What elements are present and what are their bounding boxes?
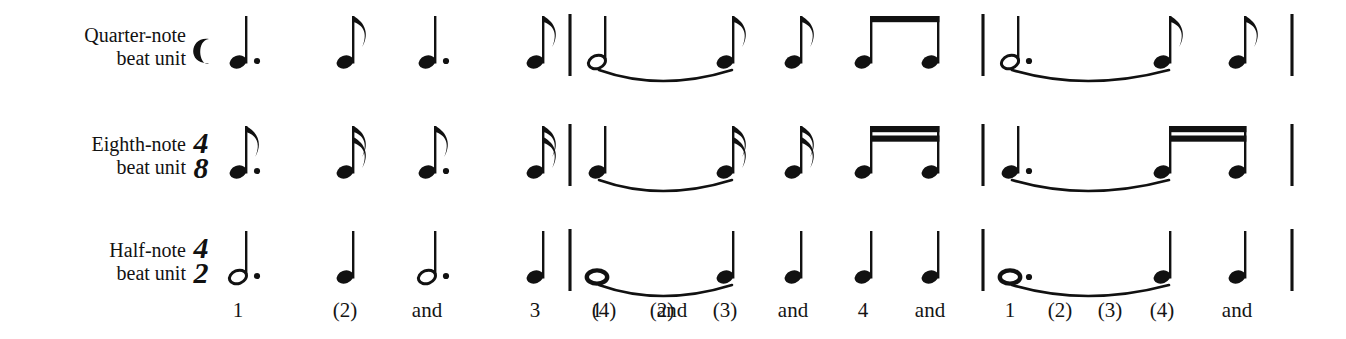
- note-flag: [733, 16, 746, 47]
- note-eighth: [1152, 16, 1183, 71]
- tie-slur: [1012, 180, 1169, 191]
- note-quarter: [1000, 126, 1032, 181]
- note-whole: [587, 270, 607, 283]
- note-quarter: [715, 231, 736, 286]
- tie-slur: [599, 180, 732, 191]
- note-eighth: [853, 16, 874, 71]
- note-sixteenth: [920, 126, 941, 181]
- time-signature-quarter-note-row: [193, 39, 210, 64]
- time-signature-half-note-row: 42: [193, 231, 209, 289]
- note-flag: [1170, 16, 1183, 47]
- tie-slur: [599, 285, 732, 296]
- count-label: (2): [333, 298, 358, 323]
- note-quarter: [587, 126, 608, 181]
- note-sixteenth: [853, 126, 874, 181]
- notation-row-quarter-note-row: [193, 14, 1292, 81]
- time-signature-eighth-note-row: 48: [193, 126, 209, 184]
- count-label: (4): [1150, 298, 1175, 323]
- notehead-whole: [1000, 270, 1020, 283]
- note-eighth: [783, 16, 814, 71]
- note-flag: [543, 16, 556, 47]
- note-eighth: [920, 16, 941, 71]
- note-flag: [1245, 16, 1258, 47]
- count-label: 3: [530, 298, 541, 323]
- note-half: [586, 16, 607, 71]
- note-flag: [801, 16, 814, 47]
- note-eighth: [1227, 16, 1258, 71]
- note-sixteenth: [525, 126, 556, 181]
- augmentation-dot: [1026, 168, 1032, 174]
- note-whole: [1000, 270, 1032, 283]
- tie-slur: [599, 70, 732, 81]
- count-label: (3): [713, 298, 738, 323]
- note-flag: [246, 126, 259, 157]
- count-label: 1: [592, 298, 603, 323]
- augmentation-dot: [254, 168, 260, 174]
- note-quarter: [1227, 231, 1248, 286]
- augmentation-dot: [254, 273, 260, 279]
- note-eighth: [715, 16, 746, 71]
- count-label: 1: [1005, 298, 1016, 323]
- count-label: and: [412, 298, 442, 323]
- count-label: and: [915, 298, 945, 323]
- count-label: and: [1222, 298, 1252, 323]
- time-signature-denominator: 8: [194, 151, 209, 184]
- count-label: 1: [233, 298, 244, 323]
- note-eighth: [335, 16, 366, 71]
- notehead-whole: [587, 270, 607, 283]
- augmentation-dot: [443, 273, 449, 279]
- time-signature-denominator: 2: [193, 256, 209, 289]
- notation-row-half-note-row: 42: [193, 229, 1293, 296]
- note-quarter: [783, 231, 804, 286]
- note-eighth: [417, 126, 449, 181]
- music-notation-canvas: 4842: [0, 0, 1346, 339]
- tie-slur: [1012, 285, 1169, 296]
- note-eighth: [228, 126, 260, 181]
- note-half: [999, 16, 1032, 71]
- note-half: [416, 231, 449, 286]
- note-quarter: [228, 16, 260, 71]
- count-label: (3): [1098, 298, 1123, 323]
- note-half: [227, 231, 260, 286]
- augmentation-dot: [443, 58, 449, 64]
- beam: [1169, 136, 1246, 142]
- count-label: and: [778, 298, 808, 323]
- note-flag: [353, 16, 366, 47]
- beam: [870, 126, 939, 132]
- augmentation-dot: [443, 168, 449, 174]
- note-flag: [435, 126, 448, 157]
- note-sixteenth: [783, 126, 814, 181]
- note-quarter: [920, 231, 941, 286]
- augmentation-dot: [1026, 58, 1032, 64]
- note-sixteenth: [715, 126, 746, 181]
- beam: [870, 136, 939, 142]
- note-quarter: [853, 231, 874, 286]
- note-sixteenth: [1152, 126, 1173, 181]
- note-eighth: [525, 16, 556, 71]
- note-quarter: [525, 231, 546, 286]
- count-label: 4: [858, 298, 869, 323]
- beam: [1169, 126, 1246, 132]
- count-label: (2): [1048, 298, 1073, 323]
- augmentation-dot: [254, 58, 260, 64]
- beam: [870, 16, 939, 22]
- note-quarter: [417, 16, 449, 71]
- tie-slur: [1012, 70, 1169, 81]
- rhythm-chart-figure: Quarter-note beat unit Eighth-note beat …: [0, 0, 1346, 339]
- common-time-cut: [205, 41, 210, 46]
- note-quarter: [1152, 231, 1173, 286]
- augmentation-dot: [1026, 274, 1032, 280]
- note-sixteenth: [335, 126, 366, 181]
- note-quarter: [335, 231, 356, 286]
- notation-row-eighth-note-row: 48: [193, 124, 1293, 191]
- count-label: (2): [650, 298, 675, 323]
- note-sixteenth: [1227, 126, 1248, 181]
